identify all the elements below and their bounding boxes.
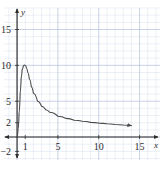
x-tick-label: 10	[94, 141, 104, 152]
y-tick-label: 2	[6, 117, 11, 128]
y-tick-label: 5	[6, 96, 11, 107]
graph-figure: 151015−2251015 x y	[0, 0, 163, 169]
x-tick-label: 5	[55, 141, 60, 152]
x-axis-label: x	[153, 140, 158, 150]
y-tick-label: 15	[1, 24, 11, 35]
y-tick-label: 10	[1, 60, 11, 71]
axis-lines	[5, 9, 158, 158]
y-tick-label: −2	[0, 146, 11, 157]
coordinate-plane: 151015−2251015 x y	[0, 0, 163, 169]
x-tick-label: 15	[135, 141, 145, 152]
y-axis-label: y	[20, 7, 25, 17]
x-tick-label: 1	[23, 141, 28, 152]
